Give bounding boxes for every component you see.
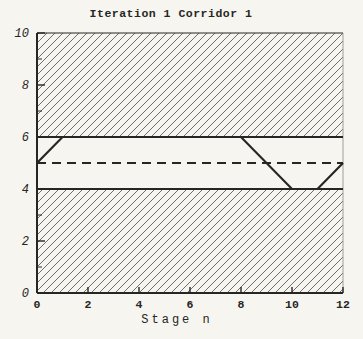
y-tick-label: 2 bbox=[22, 235, 29, 249]
figure: Iteration 1 Corridor 1 0246810024681012 … bbox=[0, 0, 363, 339]
x-tick-label: 12 bbox=[336, 298, 350, 311]
y-tick-label: 6 bbox=[22, 131, 29, 145]
y-tick-label: 10 bbox=[15, 27, 29, 41]
x-axis-title: Stage n bbox=[27, 313, 327, 327]
y-tick-label: 8 bbox=[22, 79, 29, 93]
x-tick-label: 4 bbox=[136, 298, 143, 311]
x-tick-label: 10 bbox=[285, 298, 299, 311]
hatched-infeasible-band bbox=[37, 189, 343, 293]
y-tick-label: 4 bbox=[22, 183, 29, 197]
x-tick-label: 2 bbox=[85, 298, 92, 311]
x-tick-label: 6 bbox=[187, 298, 194, 311]
x-tick-label: 8 bbox=[238, 298, 245, 311]
y-tick-label: 0 bbox=[22, 287, 29, 301]
plot-canvas: 0246810024681012 bbox=[0, 0, 363, 339]
hatched-infeasible-band bbox=[37, 33, 343, 137]
x-tick-label: 0 bbox=[34, 298, 41, 311]
